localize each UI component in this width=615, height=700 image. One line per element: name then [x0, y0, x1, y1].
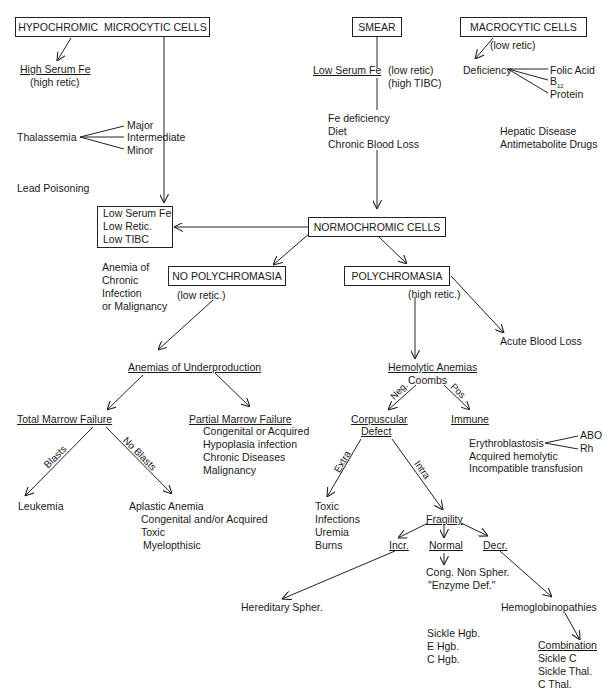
defect: Defect	[361, 426, 391, 437]
polychromasia-label: POLYCHROMASIA	[352, 271, 443, 282]
aplastic-cause: Myelopthisic	[141, 540, 268, 553]
hypochromic-label: HYPOCHROMIC MICROCYTIC CELLS	[18, 22, 206, 33]
fragility-normal: Normal	[429, 540, 463, 551]
anemia-chronic-infection: Anemia of Chronic Infection or Malignanc…	[102, 262, 167, 314]
macrocytic-box: MACROCYTIC CELLS	[460, 17, 587, 37]
hgb-types: Sickle Hgb. E Hgb. C Hgb.	[427, 628, 480, 667]
corpuscular: Corpuscular	[351, 414, 408, 425]
deficiency: Deficiency	[463, 65, 511, 76]
combination-type: C Thal.	[538, 679, 592, 692]
thalassemia-intermediate: Intermediate	[127, 132, 185, 143]
chronic-line-4: or Malignancy	[102, 301, 167, 314]
poly-high-retic: (high retic.)	[408, 289, 461, 300]
hemoglobinopathies: Hemoglobinopathies	[501, 602, 597, 613]
thalassemia-major: Major	[127, 120, 153, 131]
anemia-flowchart: HYPOCHROMIC MICROCYTIC CELLS SMEAR MACRO…	[0, 0, 615, 700]
fe-deficiency: Fe deficiency	[328, 113, 390, 124]
high-tibc-note: (high TIBC)	[388, 78, 442, 89]
polychromasia-box: POLYCHROMASIA	[344, 266, 450, 286]
low-retic-line: Low Retic.	[103, 221, 152, 234]
smear-label: SMEAR	[358, 22, 395, 33]
fragility: Fragility	[426, 514, 463, 525]
partial-marrow-failure: Partial Marrow Failure	[189, 414, 292, 425]
no-polychromasia-label: NO POLYCHROMASIA	[172, 271, 282, 282]
folic-acid: Folic Acid	[550, 65, 595, 76]
b-label: B	[550, 75, 557, 87]
immune: Immune	[451, 414, 489, 425]
diet: Diet	[328, 126, 347, 137]
abo: ABO	[580, 430, 602, 441]
hypochromic-microcytic-box: HYPOCHROMIC MICROCYTIC CELLS	[15, 17, 210, 37]
combination-types: Sickle C Sickle Thal. C Thal.	[538, 653, 592, 692]
total-marrow-failure: Total Marrow Failure	[17, 414, 112, 425]
low-tibc-line: Low TIBC	[103, 234, 149, 247]
combination: Combination	[538, 640, 597, 651]
aplastic-causes: Congenital and/or Acquired Toxic Myelopt…	[141, 514, 268, 553]
incompatible-transfusion: Incompatible transfusion	[469, 463, 583, 474]
high-retic-note: (high retic)	[30, 77, 80, 88]
fragility-incr: Incr.	[389, 540, 409, 551]
low-serum-fe: Low Serum Fe	[313, 65, 381, 76]
normochromic-box: NORMOCHROMIC CELLS	[308, 217, 446, 237]
thalassemia: Thalassemia	[17, 132, 77, 143]
normochromic-label: NORMOCHROMIC CELLS	[314, 222, 441, 233]
enzyme-def: "Enzyme Def."	[428, 580, 496, 591]
low-serum-fe-line: Low Serum Fe	[103, 208, 171, 221]
no-poly-low-retic: (low retic.)	[177, 290, 225, 301]
protein: Protein	[550, 89, 583, 100]
aplastic-anemia: Aplastic Anemia	[129, 501, 204, 512]
rh: Rh	[580, 443, 593, 454]
anemias-of-underproduction: Anemias of Underproduction	[128, 362, 261, 373]
erythroblastosis: Erythroblastosis	[469, 438, 544, 449]
coombs: Coombs	[408, 375, 447, 386]
cong-non-spher: Cong. Non Spher.	[426, 567, 509, 578]
hereditary-spher: Hereditary Spher.	[241, 602, 323, 613]
partial-marrow-causes: Congenital or Acquired Hypoplasia infect…	[203, 426, 309, 478]
leukemia: Leukemia	[18, 501, 64, 512]
smear-box: SMEAR	[352, 17, 402, 37]
antimetabolite-drugs: Antimetabolite Drugs	[500, 139, 597, 150]
partial-cause: Malignancy	[203, 465, 309, 478]
macrocytic-label: MACROCYTIC CELLS	[470, 22, 577, 33]
macro-low-retic: (low retic)	[490, 40, 536, 51]
lead-poisoning: Lead Poisoning	[17, 183, 89, 194]
connector-lines	[0, 0, 615, 700]
thalassemia-minor: Minor	[127, 145, 153, 156]
acquired-hemolytic: Acquired hemolytic	[469, 451, 558, 462]
extra-causes: Toxic Infections Uremia Burns	[315, 501, 360, 553]
low-serum-fe-box: Low Serum Fe Low Retic. Low TIBC	[97, 206, 173, 248]
hgb-type: C Hgb.	[427, 654, 480, 667]
extra-cause: Burns	[315, 540, 360, 553]
hepatic-disease: Hepatic Disease	[500, 126, 576, 137]
chronic-blood-loss: Chronic Blood Loss	[328, 139, 419, 150]
high-serum-fe: High Serum Fe	[20, 64, 91, 75]
no-polychromasia-box: NO POLYCHROMASIA	[168, 266, 286, 286]
acute-blood-loss: Acute Blood Loss	[500, 336, 582, 347]
fragility-decr: Decr.	[483, 540, 508, 551]
hemolytic-anemias: Hemolytic Anemias	[388, 362, 477, 373]
low-retic-note: (low retic)	[388, 65, 434, 76]
